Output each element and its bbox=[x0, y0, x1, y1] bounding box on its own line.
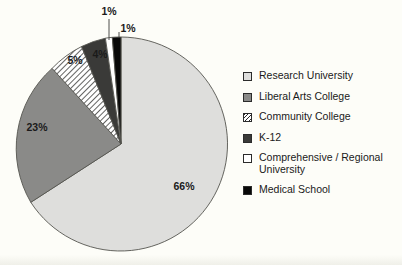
legend-label-k12: K-12 bbox=[259, 132, 281, 144]
legend-label-liberal-arts-college: Liberal Arts College bbox=[259, 91, 350, 103]
legend-item-research-university[interactable]: Research University bbox=[243, 70, 402, 82]
chart-legend: Research University Liberal Arts College… bbox=[243, 70, 402, 205]
legend-label-research-university: Research University bbox=[259, 70, 353, 82]
slice-value-k12: 4% bbox=[92, 48, 108, 60]
legend-label-medical-school: Medical School bbox=[259, 184, 330, 196]
legend-item-k12[interactable]: K-12 bbox=[243, 132, 402, 144]
pie-chart-figure: 66% 23% 5% 4% 1% 1% Research University … bbox=[0, 0, 402, 265]
legend-item-liberal-arts-college[interactable]: Liberal Arts College bbox=[243, 91, 402, 103]
legend-swatch-icon-research-university bbox=[243, 72, 252, 81]
legend-item-comprehensive-regional-university[interactable]: Comprehensive / Regional University bbox=[243, 152, 402, 175]
legend-label-comprehensive-regional-university: Comprehensive / Regional University bbox=[259, 152, 383, 175]
legend-swatch-icon-k12 bbox=[243, 134, 252, 143]
legend-swatch-icon-medical-school bbox=[243, 186, 252, 195]
slice-value-research-university: 66% bbox=[173, 180, 195, 192]
legend-swatch-icon-comprehensive-regional-university bbox=[243, 154, 252, 163]
slice-value-comprehensive-regional-university: 1% bbox=[101, 5, 117, 17]
slice-value-liberal-arts-college: 23% bbox=[26, 121, 48, 133]
slice-value-medical-school: 1% bbox=[120, 22, 136, 34]
legend-swatch-icon-liberal-arts-college bbox=[243, 93, 252, 102]
legend-item-community-college[interactable]: Community College bbox=[243, 111, 402, 123]
legend-item-medical-school[interactable]: Medical School bbox=[243, 184, 402, 196]
legend-label-community-college: Community College bbox=[259, 111, 351, 123]
legend-swatch-icon-community-college bbox=[243, 113, 252, 122]
slice-value-community-college: 5% bbox=[67, 54, 83, 66]
